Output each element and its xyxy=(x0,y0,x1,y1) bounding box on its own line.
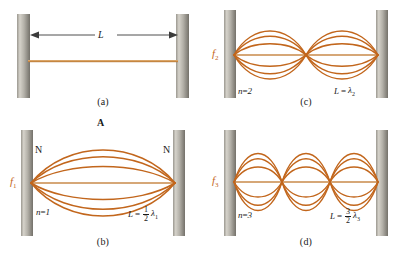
standing-wave-figure: L (a) xyxy=(0,0,412,258)
mode-label-n2: n=2 xyxy=(238,87,252,96)
frequency-label-f3: f3 xyxy=(212,175,219,189)
length-label-L: L xyxy=(98,30,104,40)
panel-d: f3 n=3 L=32λ3 (d) xyxy=(206,118,412,258)
frequency-subscript: 1 xyxy=(13,182,17,190)
relation-label-d: L=32λ3 xyxy=(330,208,360,225)
wave-curves-n2 xyxy=(234,31,378,79)
fraction-denominator: 2 xyxy=(345,216,351,225)
panel-b: A N N f1 n=1 L=12λ1 (b) xyxy=(0,118,206,258)
frequency-label-f1: f1 xyxy=(10,176,17,190)
panel-d-caption: (d) xyxy=(286,236,326,247)
mode-value: 2 xyxy=(248,86,253,96)
node-label-right-N: N xyxy=(163,145,170,155)
fraction-numerator: 1 xyxy=(143,206,149,214)
lambda-subscript: 2 xyxy=(352,91,355,97)
left-post xyxy=(17,14,30,98)
lambda-term: λ3 xyxy=(353,211,360,222)
panel-c-caption: (c) xyxy=(286,96,326,107)
panel-c: f2 n=2 L=λ2 (c) xyxy=(206,0,412,118)
mode-value: 1 xyxy=(46,207,51,217)
right-post xyxy=(176,14,189,98)
frequency-subscript: 2 xyxy=(215,54,219,62)
mode-label-n3: n=3 xyxy=(238,211,252,220)
mode-value: 3 xyxy=(248,210,253,220)
relation-label-b: L=12λ1 xyxy=(128,206,158,223)
relation-label-c: L=λ2 xyxy=(334,86,355,97)
panel-b-caption: (b) xyxy=(83,236,123,247)
fraction-one-half: 12 xyxy=(143,206,149,223)
panel-a-caption: (a) xyxy=(83,96,123,107)
length-dimension-arrow xyxy=(30,32,178,39)
lambda-term: λ1 xyxy=(151,209,158,220)
wave-curves-n3 xyxy=(234,154,378,211)
equals-sign: = xyxy=(135,210,140,219)
equals-sign: = xyxy=(341,87,346,96)
fraction-numerator: 3 xyxy=(345,208,351,216)
lambda-subscript: 1 xyxy=(155,214,158,220)
relation-L: L xyxy=(334,87,339,96)
node-label-left-N: N xyxy=(35,145,42,155)
lambda-subscript: 3 xyxy=(357,216,360,222)
relation-L: L xyxy=(330,212,335,221)
fraction-three-halves: 32 xyxy=(345,208,351,225)
equals-sign: = xyxy=(337,212,342,221)
antinode-label-A: A xyxy=(97,118,104,128)
mode-label-n1: n=1 xyxy=(36,208,50,217)
fraction-denominator: 2 xyxy=(143,214,149,223)
lambda-term: λ2 xyxy=(348,86,355,97)
string-at-rest xyxy=(28,60,178,62)
frequency-subscript: 3 xyxy=(215,181,219,189)
panel-a: L (a) xyxy=(0,0,206,118)
frequency-label-f2: f2 xyxy=(212,48,219,62)
relation-L: L xyxy=(128,210,133,219)
